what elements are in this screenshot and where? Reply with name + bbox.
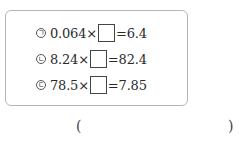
problem-row-1: ㄱ 0.064 × = 6.4 — [36, 23, 147, 43]
circled-marker-icon: ㄷ — [36, 80, 46, 90]
blank-box[interactable] — [98, 24, 115, 42]
answer-close-paren: ) — [228, 118, 233, 134]
equals-sign: = — [108, 78, 119, 93]
equals-sign: = — [116, 26, 127, 41]
blank-box[interactable] — [90, 50, 107, 68]
equals-sign: = — [108, 52, 119, 67]
result-value: 7.85 — [119, 78, 147, 93]
result-value: 6.4 — [127, 26, 147, 41]
circled-marker-icon: ㄴ — [36, 54, 46, 64]
multiply-sign: × — [78, 52, 89, 67]
problem-row-2: ㄴ 8.24 × = 82.4 — [36, 49, 147, 69]
problem-row-3: ㄷ 78.5 × = 7.85 — [36, 75, 147, 95]
blank-box[interactable] — [90, 76, 107, 94]
answer-open-paren: ( — [76, 118, 81, 134]
multiply-sign: × — [86, 26, 97, 41]
left-operand: 8.24 — [50, 52, 78, 67]
circled-marker-icon: ㄱ — [36, 28, 46, 38]
left-operand: 78.5 — [50, 78, 78, 93]
multiply-sign: × — [78, 78, 89, 93]
left-operand: 0.064 — [50, 26, 86, 41]
result-value: 82.4 — [119, 52, 147, 67]
